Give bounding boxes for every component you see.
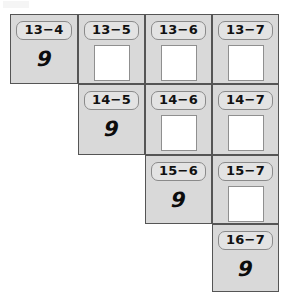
problem-label: 15−6: [151, 162, 206, 181]
answer-input-box[interactable]: [94, 45, 130, 81]
subtraction-worksheet-grid: 13−4913−513−613−714−5914−614−715−6915−71…: [0, 0, 289, 301]
problem-cell-15-7[interactable]: 15−7: [212, 155, 279, 224]
handwritten-answer: 9: [170, 185, 186, 219]
scan-artifact: [3, 1, 29, 8]
answer-input-box[interactable]: [161, 115, 197, 151]
handwritten-answer: 9: [36, 44, 52, 78]
problem-label: 13−7: [218, 21, 273, 40]
problem-cell-13-6[interactable]: 13−6: [145, 14, 212, 84]
answer-input-box[interactable]: [228, 45, 264, 81]
problem-cell-14-5[interactable]: 14−59: [78, 84, 145, 155]
problem-label: 14−6: [151, 91, 206, 110]
problem-label: 13−4: [16, 21, 71, 40]
answer-input-box[interactable]: [228, 186, 264, 222]
problem-cell-14-7[interactable]: 14−7: [212, 84, 279, 155]
problem-cell-14-6[interactable]: 14−6: [145, 84, 212, 155]
problem-cell-15-6[interactable]: 15−69: [145, 155, 212, 224]
problem-label: 15−7: [218, 162, 273, 181]
handwritten-answer: 9: [103, 114, 119, 148]
problem-label: 13−5: [84, 21, 139, 40]
problem-label: 13−6: [151, 21, 206, 40]
answer-input-box[interactable]: [161, 45, 197, 81]
problem-cell-13-5[interactable]: 13−5: [78, 14, 145, 84]
problem-label: 16−7: [218, 231, 273, 250]
problem-cell-13-4[interactable]: 13−49: [10, 14, 78, 84]
answer-input-box[interactable]: [228, 115, 264, 151]
handwritten-answer: 9: [237, 254, 253, 288]
problem-label: 14−5: [84, 91, 139, 110]
problem-cell-13-7[interactable]: 13−7: [212, 14, 279, 84]
problem-cell-16-7[interactable]: 16−79: [212, 224, 279, 292]
problem-label: 14−7: [218, 91, 273, 110]
